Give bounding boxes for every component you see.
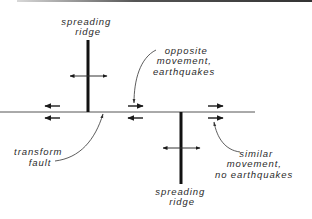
label-transform-fault: transform fault (14, 146, 66, 168)
leader-similar (214, 122, 240, 152)
label-ridge-top: spreading ridge (61, 16, 114, 37)
label-similar-movement: similar movement, no earthquakes (215, 148, 293, 180)
transform-fault-diagram: spreading ridge opposite movement, earth… (0, 0, 312, 219)
label-opposite-movement: opposite movement, earthquakes (153, 45, 215, 77)
label-ridge-bottom: spreading ridge (155, 186, 208, 207)
